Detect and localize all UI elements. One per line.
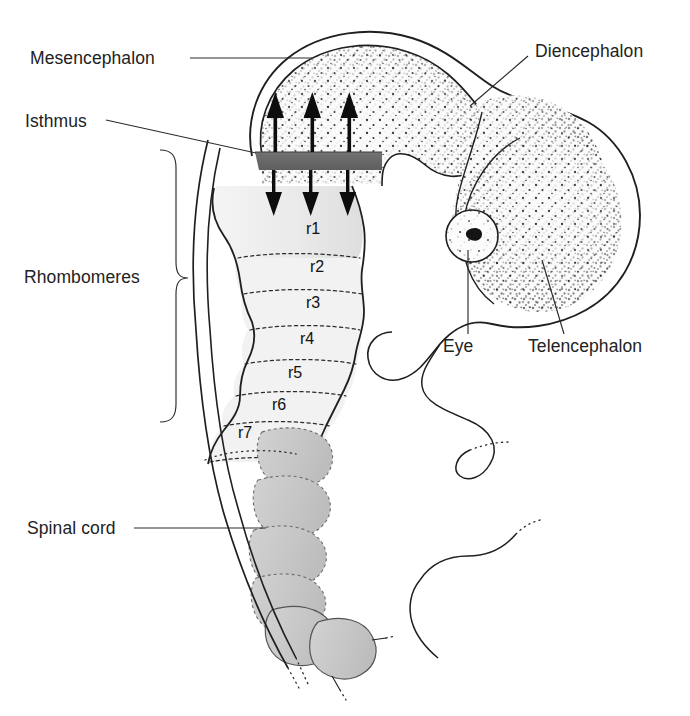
label-rhombomeres: Rhombomeres <box>24 267 140 287</box>
rhombomere-r1-shape <box>214 186 363 258</box>
label-r7: r7 <box>238 424 252 441</box>
rhombomere-r2-shape <box>235 258 363 294</box>
rhombomere-r3-shape <box>241 294 363 330</box>
label-eye: Eye <box>443 336 473 356</box>
label-isthmus: Isthmus <box>25 111 87 131</box>
label-mesencephalon: Mesencephalon <box>30 48 155 68</box>
isthmus-band <box>255 152 382 170</box>
eye-vesicle <box>446 210 498 262</box>
label-diencephalon: Diencephalon <box>535 41 643 61</box>
label-telencephalon: Telencephalon <box>528 336 642 356</box>
label-r4: r4 <box>300 330 314 347</box>
somite-6 <box>310 618 376 678</box>
label-r2: r2 <box>310 258 324 275</box>
label-spinal-cord: Spinal cord <box>27 518 116 538</box>
label-r3: r3 <box>306 294 320 311</box>
label-r5: r5 <box>288 364 302 381</box>
label-r6: r6 <box>272 396 286 413</box>
figure-canvas: Mesencephalon Isthmus Rhombomeres Spinal… <box>0 0 690 716</box>
brain-diagram-svg: Mesencephalon Isthmus Rhombomeres Spinal… <box>0 0 690 716</box>
label-r1: r1 <box>306 220 320 237</box>
